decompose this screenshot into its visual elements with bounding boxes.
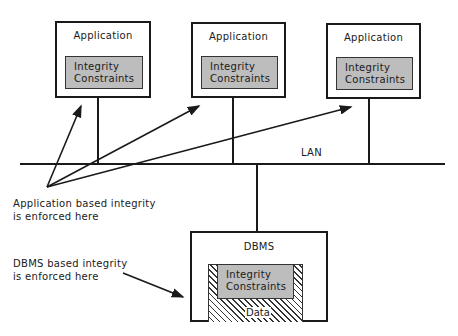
arrow-app2 <box>47 106 199 187</box>
annotation-line: Application based integrity <box>13 197 156 210</box>
annotation-line: is enforced here <box>13 210 156 223</box>
arrow-dbms <box>123 273 183 297</box>
app-integrity-annotation: Application based integrity is enforced … <box>13 197 156 223</box>
ic-line1: Integrity <box>74 61 142 73</box>
ic-line1: Integrity <box>345 62 412 74</box>
arrow-app1 <box>47 106 81 187</box>
application-box-1: Application Integrity Constraints <box>55 21 151 98</box>
annotation-line: DBMS based integrity <box>13 257 127 270</box>
integrity-constraints-box: Integrity Constraints <box>217 264 294 299</box>
ic-line1: Integrity <box>226 269 293 281</box>
dbms-box: DBMS Data Integrity Constraints <box>190 231 328 322</box>
application-title: Application <box>328 32 419 43</box>
integrity-constraints-box: Integrity Constraints <box>201 56 278 89</box>
integrity-constraints-box: Integrity Constraints <box>336 57 413 90</box>
data-label: Data <box>245 307 271 318</box>
ic-line2: Constraints <box>226 281 293 293</box>
application-title: Application <box>57 30 149 41</box>
ic-line2: Constraints <box>74 73 142 85</box>
annotation-line: is enforced here <box>13 270 127 283</box>
application-title: Application <box>193 31 284 42</box>
lan-label: LAN <box>301 146 322 159</box>
ic-line2: Constraints <box>345 74 412 86</box>
integrity-constraints-box: Integrity Constraints <box>65 56 143 89</box>
ic-line1: Integrity <box>210 61 277 73</box>
ic-line2: Constraints <box>210 73 277 85</box>
dbms-title: DBMS <box>192 241 326 252</box>
application-box-2: Application Integrity Constraints <box>191 22 286 98</box>
dbms-integrity-annotation: DBMS based integrity is enforced here <box>13 257 127 283</box>
application-box-3: Application Integrity Constraints <box>326 23 421 99</box>
